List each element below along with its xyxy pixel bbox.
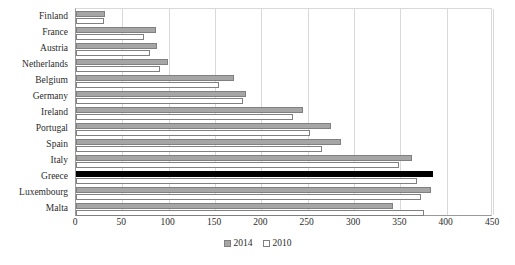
bar-2014: [76, 43, 157, 49]
bar-row: [76, 57, 491, 73]
category-label: Luxembourg: [19, 187, 68, 197]
legend-item-2010: 2010: [263, 238, 292, 248]
category-label: Belgium: [35, 75, 68, 85]
x-tick-label: 50: [117, 217, 127, 227]
x-tick-label: 300: [346, 217, 360, 227]
bar-row: [76, 201, 491, 217]
bar-row: [76, 25, 491, 41]
category-label: Greece: [41, 171, 68, 181]
bar-2010: [76, 130, 310, 136]
category-label: Portugal: [36, 123, 68, 133]
bar-2014: [76, 59, 168, 65]
x-tick-label: 150: [207, 217, 221, 227]
bar-2010: [76, 146, 322, 152]
category-axis-labels: FinlandFranceAustriaNetherlandsBelgiumGe…: [0, 8, 72, 216]
bar-2014: [76, 171, 433, 177]
bar-row: [76, 153, 491, 169]
bar-2014: [76, 139, 341, 145]
bar-2014: [76, 27, 156, 33]
legend-label: 2014: [234, 238, 253, 248]
bar-2010: [76, 210, 424, 216]
legend-item-2014: 2014: [224, 238, 253, 248]
bar-2010: [76, 82, 219, 88]
x-tick-label: 200: [253, 217, 267, 227]
bar-row: [76, 105, 491, 121]
bar-2014: [76, 11, 105, 17]
bar-2014: [76, 107, 303, 113]
bar-2014: [76, 123, 331, 129]
bar-2010: [76, 66, 160, 72]
bar-row: [76, 89, 491, 105]
bar-2010: [76, 194, 421, 200]
gray-square-icon: [224, 240, 231, 247]
gridline: [493, 9, 494, 215]
bar-2014: [76, 203, 393, 209]
category-label: Spain: [46, 139, 68, 149]
category-label: Germany: [33, 91, 68, 101]
category-label: Finland: [39, 11, 68, 21]
bar-row: [76, 73, 491, 89]
category-label: Austria: [40, 43, 68, 53]
legend-label: 2010: [273, 238, 292, 248]
bar-2010: [76, 114, 293, 120]
chart-legend: 2014 2010: [0, 238, 515, 248]
bar-2014: [76, 155, 412, 161]
x-axis-tick-labels: 050100150200250300350400450: [0, 217, 515, 231]
plot-area: [75, 8, 492, 216]
bar-row: [76, 41, 491, 57]
bar-row: [76, 169, 491, 185]
category-label: Ireland: [41, 107, 68, 117]
bar-2014: [76, 187, 431, 193]
category-label: Malta: [46, 203, 68, 213]
bar-2010: [76, 98, 243, 104]
bar-chart: FinlandFranceAustriaNetherlandsBelgiumGe…: [0, 0, 515, 265]
category-label: Netherlands: [22, 59, 68, 69]
bar-2010: [76, 162, 399, 168]
x-tick-label: 250: [300, 217, 314, 227]
x-tick-label: 350: [392, 217, 406, 227]
white-square-icon: [263, 240, 270, 247]
bar-row: [76, 137, 491, 153]
bar-2010: [76, 178, 417, 184]
bar-row: [76, 185, 491, 201]
bar-2010: [76, 50, 150, 56]
bar-2010: [76, 34, 144, 40]
bar-row: [76, 9, 491, 25]
x-tick-label: 0: [73, 217, 78, 227]
category-label: Italy: [51, 155, 68, 165]
bar-2010: [76, 18, 104, 24]
bar-2014: [76, 91, 246, 97]
x-tick-label: 450: [485, 217, 499, 227]
x-tick-label: 400: [439, 217, 453, 227]
bar-2014: [76, 75, 234, 81]
category-label: France: [42, 27, 68, 37]
bar-row: [76, 121, 491, 137]
bar-rows: [76, 9, 491, 215]
x-tick-label: 100: [161, 217, 175, 227]
